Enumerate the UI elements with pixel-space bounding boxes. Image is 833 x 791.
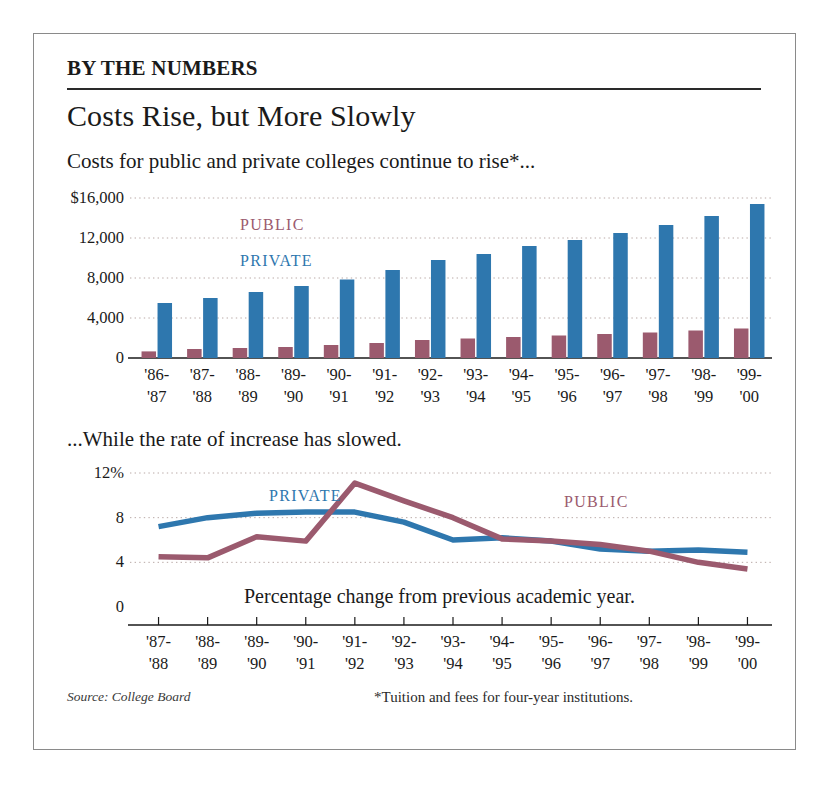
bar-public <box>734 329 749 359</box>
bar-public <box>415 340 430 358</box>
x-axis-label-bottom: '95 <box>492 654 511 673</box>
x-axis-label-bottom: '97 <box>603 387 622 406</box>
bar-private <box>477 254 492 358</box>
x-axis-label-top: '90- <box>293 632 318 651</box>
x-axis-label-bottom: '91 <box>296 654 315 673</box>
x-axis-label-top: '93- <box>463 365 488 384</box>
x-axis-label-bottom: '90 <box>284 387 303 406</box>
x-axis-label-bottom: '92 <box>345 654 364 673</box>
bar-public <box>324 345 339 358</box>
y-axis-label: 12% <box>94 463 125 482</box>
bar-chart: 04,0008,00012,000$16,000PUBLICPRIVATE'86… <box>44 186 784 411</box>
bar-private <box>750 204 765 358</box>
chart-annotation: Percentage change from previous academic… <box>244 585 635 608</box>
bar-private <box>249 292 264 358</box>
x-axis-label-top: '93- <box>441 632 466 651</box>
x-axis-label-top: '91- <box>342 632 367 651</box>
x-axis-label-bottom: '93 <box>420 387 439 406</box>
x-axis-label-bottom: '95 <box>512 387 531 406</box>
x-axis-label-bottom: '94 <box>443 654 462 673</box>
x-axis-label-top: '87- <box>190 365 215 384</box>
x-axis-label-top: '97- <box>637 632 662 651</box>
kicker-rule <box>67 88 761 90</box>
x-axis-label-top: '92- <box>391 632 416 651</box>
bar-public <box>552 336 567 359</box>
bar-public <box>643 333 658 359</box>
x-axis-label-bottom: '99 <box>689 654 708 673</box>
page-title: Costs Rise, but More Slowly <box>67 99 416 133</box>
bar-private <box>613 233 628 358</box>
y-axis-label: $16,000 <box>70 188 124 207</box>
x-axis-label-top: '99- <box>735 632 760 651</box>
x-axis-label-top: '95- <box>539 632 564 651</box>
x-axis-label-bottom: '00 <box>739 387 758 406</box>
y-axis-label: 4 <box>116 552 124 571</box>
x-axis-label-bottom: '90 <box>247 654 266 673</box>
x-axis-label-bottom: '00 <box>738 654 757 673</box>
line-chart: 04812%PRIVATEPUBLICPercentage change fro… <box>44 459 784 704</box>
x-axis-label-top: '88- <box>195 632 220 651</box>
y-axis-label: 0 <box>116 348 124 367</box>
bar-public <box>142 351 157 358</box>
bar-private <box>568 240 583 358</box>
line-series-public <box>159 483 748 569</box>
x-axis-label-top: '94- <box>490 632 515 651</box>
x-axis-label-bottom: '93 <box>394 654 413 673</box>
bar-private <box>294 286 309 358</box>
x-axis-label-bottom: '87 <box>147 387 166 406</box>
x-axis-label-top: '92- <box>418 365 443 384</box>
x-axis-label-top: '89- <box>244 632 269 651</box>
x-axis-label-bottom: '98 <box>640 654 659 673</box>
x-axis-label-top: '90- <box>327 365 352 384</box>
bar-private <box>340 280 355 359</box>
x-axis-label-bottom: '92 <box>375 387 394 406</box>
bar-private <box>431 260 446 358</box>
x-axis-label-top: '97- <box>646 365 671 384</box>
bar-private <box>158 303 173 358</box>
x-axis-label-top: '88- <box>235 365 260 384</box>
bar-private <box>203 298 218 358</box>
infographic-frame: BY THE NUMBERS Costs Rise, but More Slow… <box>33 33 796 750</box>
bar-private <box>659 225 674 358</box>
legend-private: PRIVATE <box>240 252 313 269</box>
bar-public <box>688 331 703 359</box>
x-axis-label-top: '91- <box>372 365 397 384</box>
bar-public <box>369 343 384 358</box>
x-axis-label-bottom: '88 <box>149 654 168 673</box>
bar-private <box>385 270 400 358</box>
x-axis-label-top: '95- <box>554 365 579 384</box>
source-label: Source: College Board <box>67 689 190 705</box>
x-axis-label-top: '86- <box>144 365 169 384</box>
x-axis-label-top: '98- <box>691 365 716 384</box>
x-axis-label-top: '89- <box>281 365 306 384</box>
x-axis-label-bottom: '89 <box>238 387 257 406</box>
y-axis-label: 4,000 <box>87 308 124 327</box>
mid-caption: ...While the rate of increase has slowed… <box>67 427 402 452</box>
legend-public: PUBLIC <box>564 493 629 510</box>
bar-private <box>522 246 537 358</box>
bar-private <box>704 216 719 358</box>
footnote-label: *Tuition and fees for four-year institut… <box>374 689 633 706</box>
deck-subtitle: Costs for public and private colleges co… <box>67 149 535 174</box>
legend-private: PRIVATE <box>269 487 342 504</box>
x-axis-label-bottom: '99 <box>694 387 713 406</box>
x-axis-label-bottom: '97 <box>590 654 609 673</box>
x-axis-label-top: '98- <box>686 632 711 651</box>
bar-public <box>461 339 476 359</box>
bar-public <box>233 348 248 358</box>
y-axis-label: 8 <box>116 508 124 527</box>
x-axis-label-bottom: '94 <box>466 387 485 406</box>
legend-public: PUBLIC <box>240 216 305 233</box>
y-axis-label: 0 <box>116 597 124 616</box>
bar-public <box>278 347 293 358</box>
x-axis-label-top: '94- <box>509 365 534 384</box>
x-axis-label-top: '96- <box>588 632 613 651</box>
kicker-label: BY THE NUMBERS <box>67 56 258 81</box>
x-axis-label-bottom: '88 <box>193 387 212 406</box>
x-axis-label-top: '87- <box>146 632 171 651</box>
y-axis-label: 12,000 <box>79 228 124 247</box>
bar-public <box>187 349 202 358</box>
bar-public <box>506 337 521 358</box>
x-axis-label-bottom: '89 <box>198 654 217 673</box>
y-axis-label: 8,000 <box>87 268 124 287</box>
